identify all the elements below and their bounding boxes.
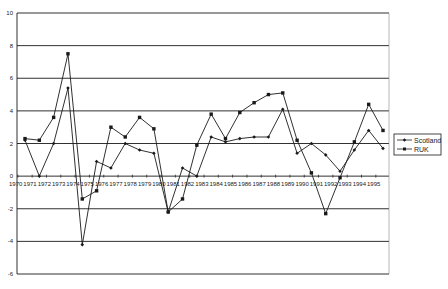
square-marker-icon [138,116,141,119]
x-tick-label: 1971 [23,181,37,187]
x-tick-label: 1988 [267,181,281,187]
x-tick-label: 1982 [181,181,195,187]
legend-label-ruk: RUK [414,146,429,153]
series-line [25,54,383,214]
diamond-marker-icon [195,174,199,178]
y-tick-label: -6 [8,271,14,277]
square-marker-icon [224,137,227,140]
y-tick-label: 6 [10,75,14,81]
y-tick-label: 0 [10,173,14,179]
square-marker-icon [324,212,327,215]
square-marker-icon [252,101,255,104]
x-tick-label: 1986 [238,181,252,187]
square-marker-icon [66,52,69,55]
square-marker-icon [209,112,212,115]
x-tick-label: 1991 [310,181,324,187]
x-tick-label: 1973 [52,181,66,187]
diamond-marker-icon [267,135,271,139]
square-marker-icon [152,127,155,130]
diamond-marker-icon [138,148,142,152]
diamond-marker-icon [38,174,42,178]
diamond-marker-icon [52,142,56,146]
y-tick-label: 2 [10,141,14,147]
x-tick-label: 1989 [281,181,295,187]
x-tick-label: 1985 [224,181,238,187]
y-tick-label: -4 [8,238,14,244]
data-series [23,52,385,246]
square-marker-icon [310,171,313,174]
x-tick-label: 1979 [138,181,152,187]
x-tick-label: 1994 [353,181,367,187]
square-marker-icon [109,125,112,128]
x-tick-label: 1974 [66,181,80,187]
square-marker-icon [353,140,356,143]
diamond-marker-icon [109,166,113,170]
x-tick-label: 1993 [338,181,352,187]
square-marker-icon [124,135,127,138]
diamond-marker-icon [95,160,99,164]
line-chart: 1086420-2-4-6 19701971197219731974197519… [0,0,448,289]
square-marker-icon [238,111,241,114]
square-marker-icon [281,91,284,94]
square-marker-icon [195,143,198,146]
legend-label-scotland: Scotland [414,137,441,144]
square-marker-icon [367,103,370,106]
x-tick-label: 1970 [9,181,23,187]
square-marker-icon [81,197,84,200]
square-marker-icon [181,197,184,200]
y-tick-label: 4 [10,108,14,114]
square-marker-icon [23,137,26,140]
y-tick-label: 8 [10,43,14,49]
diamond-marker-icon [238,137,242,141]
x-tick-label: 1978 [124,181,138,187]
x-tick-label: 1990 [295,181,309,187]
square-marker-icon [52,116,55,119]
square-marker-icon [295,139,298,142]
x-tick-label: 1981 [167,181,181,187]
y-tick-label: -2 [8,206,14,212]
x-tick-label: 1977 [109,181,123,187]
square-marker-icon [95,189,98,192]
x-tick-label: 1972 [38,181,52,187]
y-tick-label: 10 [6,10,13,16]
square-marker-icon [38,139,41,142]
x-tick-label: 1976 [95,181,109,187]
square-marker-icon [403,148,406,151]
series-scotland [23,86,385,246]
square-marker-icon [381,129,384,132]
square-marker-icon [167,210,170,213]
square-marker-icon [267,93,270,96]
x-tick-label: 1984 [209,181,223,187]
diamond-marker-icon [252,135,256,139]
diamond-marker-icon [80,243,84,247]
diamond-marker-icon [66,86,70,90]
x-tick-label: 1992 [324,181,338,187]
square-marker-icon [338,176,341,179]
x-tick-label: 1987 [252,181,266,187]
diamond-marker-icon [152,151,156,155]
diamond-marker-icon [209,135,213,139]
x-tick-label: 1983 [195,181,209,187]
legend: Scotland RUK [394,134,441,155]
x-tick-label: 1995 [367,181,381,187]
